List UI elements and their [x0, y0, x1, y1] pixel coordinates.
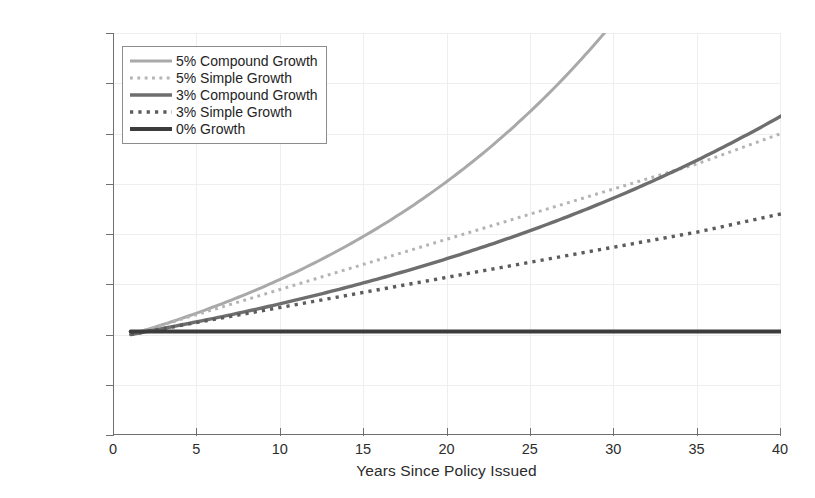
legend-label: 5% Simple Growth [176, 71, 292, 85]
x-tick-label: 25 [522, 441, 538, 457]
legend-item[interactable]: 3% Simple Growth [129, 104, 318, 121]
legend-item[interactable]: 5% Simple Growth [129, 69, 318, 86]
x-tick-label: 0 [109, 441, 117, 457]
legend[interactable]: 5% Compound Growth5% Simple Growth3% Com… [122, 46, 327, 144]
legend-item[interactable]: 3% Compound Growth [129, 86, 318, 103]
y-tick-mark [106, 435, 114, 436]
legend-label: 5% Compound Growth [176, 54, 318, 68]
x-tick-label: 35 [689, 441, 705, 457]
x-tick-label: 40 [772, 441, 788, 457]
legend-line-swatch [129, 71, 173, 85]
legend-item[interactable]: 5% Compound Growth [129, 52, 318, 69]
x-axis-title: Years Since Policy Issued [113, 462, 780, 480]
x-tick-label: 20 [438, 441, 454, 457]
series-line [131, 134, 781, 335]
x-tick-label: 30 [605, 441, 621, 457]
legend-line-swatch [129, 105, 173, 119]
legend-line-swatch [129, 54, 173, 68]
legend-label: 3% Compound Growth [176, 88, 318, 102]
x-tick-label: 15 [355, 441, 371, 457]
x-tick-label: 10 [272, 441, 288, 457]
legend-label: 0% Growth [176, 122, 245, 136]
legend-line-swatch [129, 122, 173, 136]
legend-line-swatch [129, 88, 173, 102]
y-axis-title: Annual Benefit Amount [0, 0, 36, 498]
legend-label: 3% Simple Growth [176, 105, 292, 119]
x-tick-label: 5 [192, 441, 200, 457]
chart-figure: Annual Benefit Amount $0$2,500$5,000$7,5… [0, 0, 815, 498]
legend-item[interactable]: 0% Growth [129, 121, 318, 138]
